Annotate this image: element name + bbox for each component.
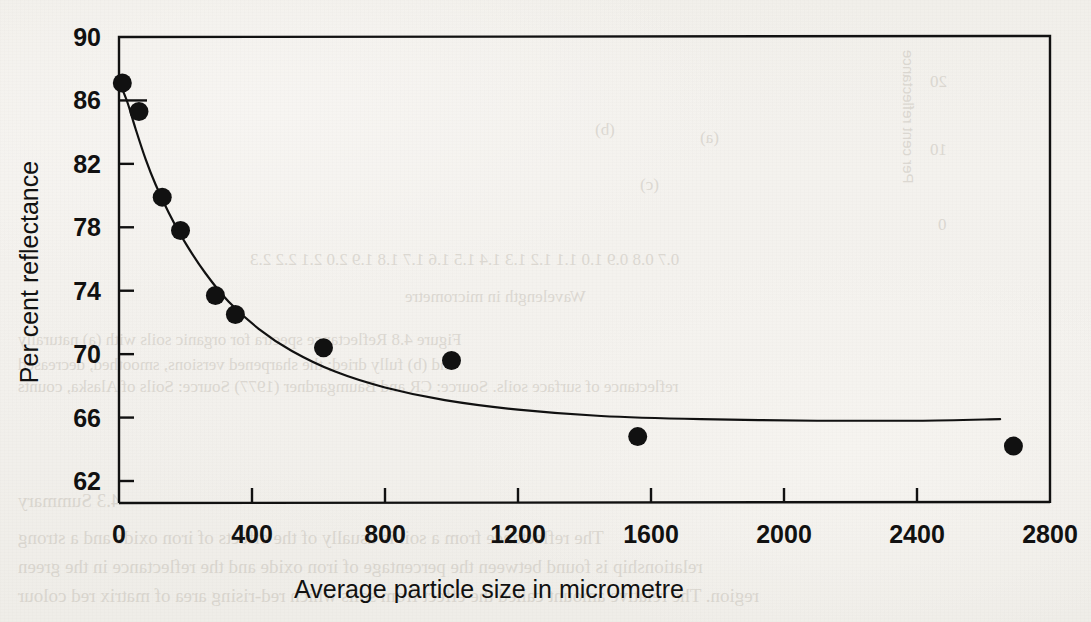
- y-tick-label: 90: [73, 23, 101, 51]
- chart-svg: 040080012001600200024002800 626670747882…: [0, 0, 1091, 622]
- y-tick-label: 66: [73, 404, 101, 432]
- data-point-marker: [113, 73, 132, 92]
- y-axis-ticks: [120, 100, 147, 481]
- data-point-marker: [314, 338, 333, 357]
- data-point-marker: [171, 221, 190, 240]
- data-point-marker: [1004, 437, 1023, 456]
- data-point-marker: [129, 102, 148, 121]
- data-point-marker: [442, 351, 461, 370]
- y-tick-label: 70: [73, 340, 101, 368]
- x-tick-label: 2800: [1022, 520, 1078, 548]
- data-point-marker: [153, 188, 172, 207]
- x-tick-label: 400: [231, 520, 273, 548]
- x-tick-label: 0: [112, 520, 126, 548]
- y-axis-title: Per cent reflectance: [15, 161, 43, 383]
- plot-border: [119, 36, 1050, 503]
- data-point-marker: [226, 305, 245, 324]
- fitted-decay-curve: [119, 81, 1000, 421]
- x-axis-tick-labels: 040080012001600200024002800: [112, 520, 1078, 548]
- y-tick-label: 82: [73, 150, 101, 178]
- y-tick-label: 62: [73, 467, 101, 495]
- y-tick-label: 86: [73, 86, 101, 114]
- reflectance-vs-particle-size-chart: 040080012001600200024002800 626670747882…: [0, 0, 1091, 622]
- x-axis-ticks: [252, 488, 917, 502]
- x-tick-label: 2400: [889, 520, 945, 548]
- y-axis-tick-labels: 6266707478828690: [73, 23, 101, 495]
- y-tick-label: 78: [73, 213, 101, 241]
- data-point-marker: [206, 286, 225, 305]
- x-tick-label: 2000: [756, 520, 812, 548]
- x-tick-label: 1600: [623, 520, 679, 548]
- x-axis-title: Average particle size in micrometre: [294, 575, 684, 603]
- y-tick-label: 74: [73, 277, 101, 305]
- data-point-marker: [628, 427, 647, 446]
- plot-frame: [119, 36, 1050, 503]
- x-tick-label: 800: [364, 520, 406, 548]
- fit-curve-path: [119, 81, 1000, 421]
- x-axis-line: [119, 502, 1050, 503]
- data-point-markers: [113, 73, 1023, 455]
- x-tick-label: 1200: [490, 520, 546, 548]
